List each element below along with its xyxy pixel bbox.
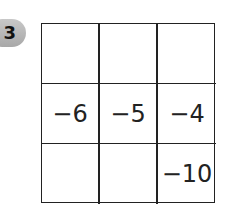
grid-cell (42, 144, 100, 204)
grid-cell: −5 (100, 84, 158, 144)
number-grid: −6 −5 −4 −10 (41, 23, 215, 203)
grid-cell (158, 24, 216, 84)
problem-number: 3 (3, 22, 16, 43)
grid-cell: −4 (158, 84, 216, 144)
grid-cell (42, 24, 100, 84)
grid-cell (100, 24, 158, 84)
grid-cell (100, 144, 158, 204)
grid-cell: −6 (42, 84, 100, 144)
problem-number-badge: 3 (0, 19, 26, 47)
grid-cell: −10 (158, 144, 216, 204)
